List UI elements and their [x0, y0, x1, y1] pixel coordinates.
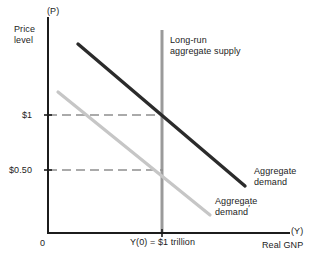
- aggregate-demand-prime-annotation: Aggregatedemand′: [215, 196, 257, 218]
- aggregate-demand-chart: (P) Pricelevel $1 $0.50 Long-runaggregat…: [0, 0, 324, 260]
- y-tick-label-price-050: $0.50: [9, 165, 32, 176]
- x-tick-label-output: Y(0) = $1 trillion: [130, 237, 195, 248]
- chart-plot-area: [0, 0, 324, 260]
- aggregate-demand-annotation: Aggregatedemand: [254, 166, 296, 188]
- aggregate-demand-prime-line1: Aggregate: [215, 196, 257, 206]
- y-axis-symbol: (P): [47, 6, 59, 17]
- aggregate-demand-prime-line2: demand: [215, 207, 248, 217]
- y-tick-label-price-1: $1: [22, 110, 32, 121]
- aggregate-demand-prime-line: [58, 92, 210, 215]
- x-axis-symbol: (Y): [291, 226, 303, 237]
- origin-label: 0: [40, 238, 45, 249]
- lras-annotation: Long-runaggregate supply: [170, 35, 241, 57]
- y-axis-label: Pricelevel: [14, 24, 35, 46]
- x-axis-label: Real GNP: [262, 240, 303, 251]
- prime-mark: ′: [248, 203, 250, 213]
